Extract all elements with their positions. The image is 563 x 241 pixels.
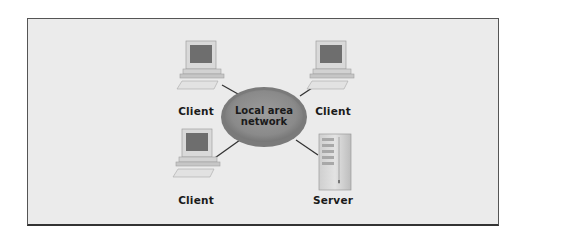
lan-label: Local area network	[229, 105, 299, 127]
computer-icon	[173, 129, 220, 177]
client-top-right-label: Client	[303, 105, 363, 117]
client-bottom-left-label: Client	[166, 194, 226, 206]
computer-icon	[177, 41, 224, 89]
lan-label-line2: network	[229, 116, 299, 127]
server-icon	[319, 134, 351, 190]
computer-icon	[307, 41, 354, 89]
edge-client-top-left	[222, 85, 238, 94]
server-label: Server	[303, 194, 363, 206]
edge-server	[296, 140, 318, 155]
lan-label-line1: Local area	[229, 105, 299, 116]
client-top-left-label: Client	[166, 105, 226, 117]
